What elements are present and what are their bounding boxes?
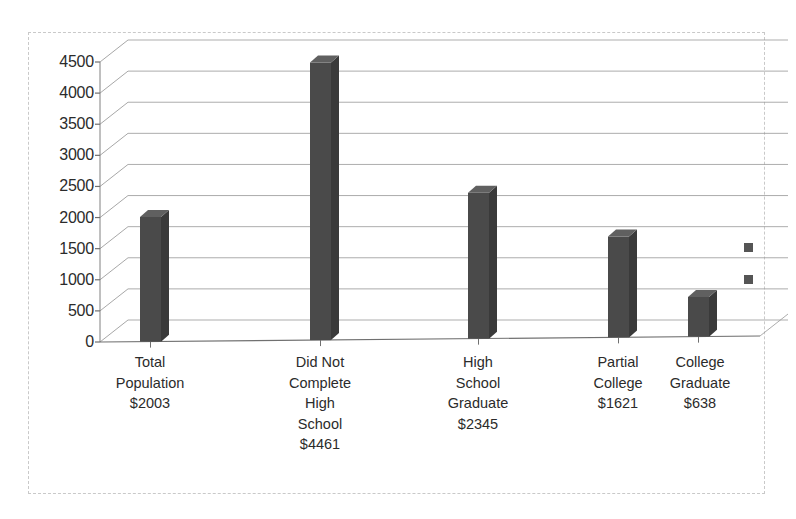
axis-ticks — [95, 62, 699, 348]
y-axis-tick-label: 2500 — [36, 178, 94, 194]
y-axis-tick-label: 3500 — [36, 116, 94, 132]
y-axis-tick-label: 0 — [36, 334, 94, 350]
category-label-line: School — [260, 414, 380, 435]
y-axis-tick-label: 2000 — [36, 210, 94, 226]
category-label-line: Graduate — [640, 373, 760, 394]
bar — [140, 210, 169, 342]
x-axis-category-label: Did NotCompleteHighSchool$4461 — [260, 352, 380, 455]
bar — [310, 56, 339, 341]
bar — [608, 230, 637, 338]
category-label-line: College — [640, 352, 760, 373]
legend-marker — [744, 243, 753, 252]
x-axis-category-label: HighSchoolGraduate$2345 — [418, 352, 538, 434]
bar — [468, 186, 497, 339]
bar-chart: 450040003500300025002000150010005000 Tot… — [0, 0, 796, 519]
bars — [140, 56, 717, 342]
gridlines — [128, 40, 788, 320]
x-axis-category-label: CollegeGraduate$638 — [640, 352, 760, 414]
legend-marker — [744, 275, 753, 284]
y-axis-tick-label: 500 — [36, 303, 94, 319]
y-axis-tick-label: 1000 — [36, 272, 94, 288]
category-label-line: Total — [90, 352, 210, 373]
y-axis-tick-label: 1500 — [36, 241, 94, 257]
axis-lines — [100, 62, 788, 342]
category-label-line: School — [418, 373, 538, 394]
category-label-line: High — [260, 393, 380, 414]
bar — [688, 290, 717, 337]
x-axis-category-labels: TotalPopulation$2003Did NotCompleteHighS… — [0, 352, 796, 502]
y-axis-tick-label: 4500 — [36, 54, 94, 70]
y-axis-tick-label: 4000 — [36, 85, 94, 101]
y-axis-tick-label: 3000 — [36, 147, 94, 163]
category-label-line: $2003 — [90, 393, 210, 414]
category-label-line: Complete — [260, 373, 380, 394]
category-label-line: Graduate — [418, 393, 538, 414]
x-axis-category-label: TotalPopulation$2003 — [90, 352, 210, 414]
category-label-line: Population — [90, 373, 210, 394]
category-label-line: $638 — [640, 393, 760, 414]
axis-depth-lines — [100, 40, 128, 342]
legend-markers — [744, 243, 753, 284]
category-label-line: $4461 — [260, 434, 380, 455]
category-label-line: $2345 — [418, 414, 538, 435]
category-label-line: High — [418, 352, 538, 373]
category-label-line: Did Not — [260, 352, 380, 373]
